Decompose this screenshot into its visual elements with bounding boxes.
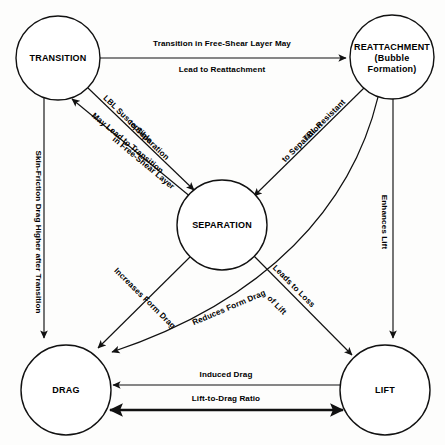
- edge-separation-to-transition: May Lead to Transition in Free-Shear Lay…: [72, 99, 192, 198]
- edge-reattachment-to-separation: TBL Resistant to Separation: [254, 88, 364, 196]
- edge-line-reattachment-separation: [254, 88, 364, 196]
- edge-reattachment-to-lift: Enhances Lift: [380, 99, 393, 338]
- node-reattachment-label-line1: REATTACHMENT: [354, 42, 430, 52]
- edge-transition-to-drag: Skin-Friction Drag Higher after Transiti…: [34, 98, 44, 338]
- edge-label-lift-drag-ratio: Lift-to-Drag Ratio: [192, 394, 260, 403]
- node-drag[interactable]: DRAG: [21, 345, 111, 435]
- node-lift-label: LIFT: [375, 385, 395, 395]
- edge-label-transition-reattachment-line2: Lead to Reattachment: [179, 65, 266, 74]
- edge-separation-to-drag: Increases Form Drag: [98, 257, 190, 348]
- concept-diagram: Transition in Free-Shear Layer May Lead …: [0, 0, 445, 445]
- node-lift[interactable]: LIFT: [340, 345, 430, 435]
- edge-label-induced-drag: Induced Drag: [200, 370, 253, 379]
- edge-line-transition-separation: [88, 88, 194, 190]
- edge-line-separation-lift: [254, 256, 352, 355]
- node-reattachment[interactable]: REATTACHMENT (Bubble Formation): [350, 15, 434, 99]
- edge-lift-to-drag-induced: Induced Drag: [113, 370, 340, 385]
- node-transition[interactable]: TRANSITION: [16, 16, 100, 100]
- edge-label-transition-reattachment-line1: Transition in Free-Shear Layer May: [153, 39, 291, 48]
- edge-lift-to-drag-ratio: Lift-to-Drag Ratio: [110, 394, 343, 410]
- edge-label-leads-to-loss-line2: of Lift: [265, 294, 288, 317]
- edge-separation-to-lift: Leads to Loss of Lift: [254, 256, 352, 355]
- diagram-canvas: Transition in Free-Shear Layer May Lead …: [0, 0, 445, 445]
- node-reattachment-label-line2: (Bubble: [375, 53, 410, 63]
- edge-label-reduces-form-drag: Reduces Form Drag: [191, 288, 267, 327]
- edge-transition-to-separation: LBL Susceptible to Separation: [88, 88, 194, 190]
- node-separation-label: SEPARATION: [192, 220, 252, 230]
- node-transition-label: TRANSITION: [30, 53, 87, 63]
- edge-label-enhances-lift: Enhances Lift: [380, 195, 389, 250]
- node-drag-label: DRAG: [52, 385, 79, 395]
- edge-label-skin-friction-drag: Skin-Friction Drag Higher after Transiti…: [34, 151, 43, 314]
- edge-label-increases-form-drag: Increases Form Drag: [112, 266, 177, 330]
- node-reattachment-label-line3: Formation): [368, 64, 417, 74]
- node-separation[interactable]: SEPARATION: [177, 180, 267, 270]
- edge-label-tbl-resistant-line2: to Separation: [280, 120, 324, 164]
- edge-transition-to-reattachment: Transition in Free-Shear Layer May Lead …: [100, 39, 346, 74]
